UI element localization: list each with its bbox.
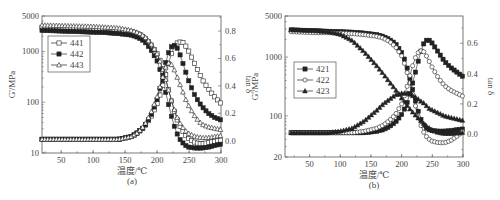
x-tick-label: 300 [215, 155, 228, 165]
y-tick-label: 1000 [265, 52, 282, 62]
x-axis-label: 温度/℃ [359, 169, 390, 180]
legend-entry-423: 423 [316, 86, 330, 96]
y-tick-label: 10 [31, 148, 40, 158]
y-axis-label: G'/MPa [250, 73, 260, 101]
legend: 441442443 [48, 36, 90, 72]
y-right-tick-label: 0.6 [225, 53, 236, 63]
y-right-tick-label: 0.2 [225, 108, 236, 118]
y-right-axis-label: tan δ [486, 78, 496, 96]
panel-label: (a) [127, 176, 137, 186]
y-right-tick-label: 0.4 [467, 69, 478, 79]
x-tick-label: 200 [395, 159, 408, 169]
x-tick-label: 150 [365, 159, 378, 169]
panel-label: (b) [369, 180, 380, 190]
figure-canvas: 5010015020025030010100100050000.00.20.40… [0, 0, 500, 200]
x-axis-label: 温度/℃ [117, 165, 148, 176]
x-tick-label: 100 [87, 155, 100, 165]
y-right-tick-label: 0.2 [467, 99, 478, 109]
legend-entry-422: 422 [316, 75, 330, 85]
x-tick-label: 50 [57, 155, 66, 165]
chart-panel-a: 5010015020025030010100100050000.00.20.40… [7, 11, 254, 186]
y-right-tick-label: 0.6 [467, 38, 478, 48]
x-tick-label: 250 [426, 159, 439, 169]
y-right-tick-label: 0.8 [225, 26, 236, 36]
x-tick-label: 100 [334, 159, 347, 169]
x-tick-label: 150 [119, 155, 132, 165]
y-tick-label: 100 [269, 111, 282, 121]
x-tick-label: 250 [183, 155, 196, 165]
y-tick-label: 1000 [22, 46, 39, 56]
legend-entry-442: 442 [70, 49, 84, 59]
y-tick-label: 100 [26, 97, 39, 107]
x-tick-label: 50 [305, 159, 314, 169]
y-axis-label: G'/MPa [7, 71, 17, 99]
x-tick-label: 300 [457, 159, 470, 169]
y-tick-label: 20 [274, 152, 283, 162]
y-right-tick-label: 0.0 [467, 129, 478, 139]
y-right-tick-label: 0.0 [225, 136, 236, 146]
legend-entry-443: 443 [70, 60, 84, 70]
y-right-tick-label: 0.4 [225, 81, 236, 91]
legend: 421422423 [294, 62, 336, 98]
legend-entry-441: 441 [70, 38, 84, 48]
y-tick-label: 5000 [265, 11, 282, 21]
x-tick-label: 200 [151, 155, 164, 165]
legend-entry-421: 421 [316, 64, 330, 74]
y-tick-label: 5000 [22, 11, 39, 21]
chart-panel-b: 5010015020025030020100100050000.00.20.40… [250, 11, 496, 190]
